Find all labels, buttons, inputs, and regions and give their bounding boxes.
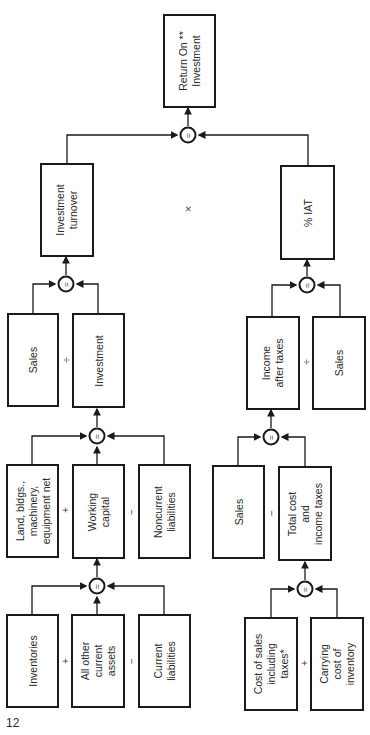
box-label: Carrying cost of inventory [318, 643, 357, 686]
equals-circle-working-capital: = [89, 578, 106, 595]
equals-circle-income: = [263, 429, 280, 446]
equals-circle-roi: = [180, 127, 197, 144]
box-sales-income: Sales [212, 465, 265, 559]
box-pct-iat: % IAT [280, 165, 335, 260]
box-cost-of-sales: Cost of sales including taxes* [244, 617, 298, 711]
equals-icon: = [267, 434, 276, 439]
box-inventories: Inventories [6, 614, 59, 708]
box-label: Land, bldgs., machinery, equipment net [13, 478, 52, 545]
box-other-current-assets: All other current assets [71, 614, 125, 708]
box-label: % IAT [301, 199, 314, 227]
equals-icon: = [62, 281, 71, 286]
equals-icon: = [184, 132, 193, 137]
box-label: Working capital [86, 492, 112, 530]
equals-icon: = [301, 586, 310, 591]
box-label: Inventories [26, 635, 39, 686]
box-label: Sales [232, 499, 245, 525]
box-current-liabilities: Current liabilities [138, 614, 191, 708]
minus-operator: − [266, 510, 277, 516]
box-total-cost: Total cost and income taxes [278, 466, 332, 561]
plus-operator: + [299, 660, 310, 666]
box-return-on-investment: Return On ** Investment [163, 14, 216, 108]
equals-circle-investment: = [89, 428, 106, 445]
box-sales-iat: Sales [312, 316, 366, 410]
box-label: Investment turnover [54, 184, 80, 235]
minus-operator: − [126, 509, 137, 515]
box-income-after-taxes: Income after taxes [246, 316, 300, 410]
box-label: Total cost and income taxes [286, 483, 325, 545]
page-number: 12 [6, 716, 19, 730]
box-label: Current liabilities [152, 641, 178, 681]
box-investment-turnover: Investment turnover [40, 163, 94, 257]
minus-operator: − [126, 658, 137, 664]
box-label: Return On ** Investment [177, 31, 203, 91]
box-sales-turnover: Sales [7, 313, 59, 407]
box-noncurrent-liabilities: Noncurrent liabilities [138, 464, 191, 559]
box-investment: Investment [72, 313, 125, 408]
equals-circle-total-cost: = [297, 581, 314, 598]
multiply-operator: × [182, 206, 194, 212]
box-label: Sales [27, 347, 40, 373]
plus-operator: + [60, 507, 71, 513]
box-label: Cost of sales including taxes* [252, 634, 291, 695]
equals-circle-iat: = [299, 277, 316, 294]
box-carrying-cost: Carrying cost of inventory [310, 617, 364, 711]
roi-diagram: Return On ** Investment Investment turno… [0, 0, 370, 735]
plus-operator: + [60, 658, 71, 664]
divide-operator: ÷ [61, 357, 72, 363]
equals-icon: = [303, 282, 312, 287]
box-label: Sales [333, 350, 346, 376]
equals-icon: = [93, 433, 102, 438]
box-label: All other current assets [79, 642, 118, 681]
box-label: Investment [92, 335, 105, 386]
box-working-capital: Working capital [72, 464, 125, 559]
box-land-buildings: Land, bldgs., machinery, equipment net [6, 464, 59, 558]
divide-operator: ÷ [301, 359, 312, 365]
box-label: Noncurrent liabilities [152, 486, 178, 538]
equals-icon: = [93, 583, 102, 588]
box-label: Income after taxes [260, 338, 286, 387]
equals-circle-turnover: = [58, 276, 75, 293]
